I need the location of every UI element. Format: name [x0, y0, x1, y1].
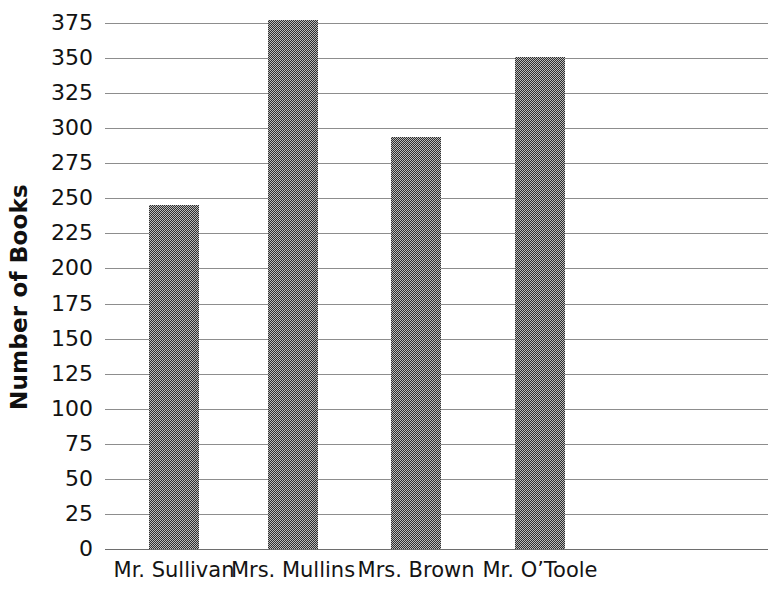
y-axis-tick-label: 150	[3, 328, 93, 350]
y-axis-tick-label: 125	[3, 363, 93, 385]
y-axis-tick-label: 375	[3, 12, 93, 34]
bar	[149, 205, 199, 549]
y-axis-tick-label: 50	[3, 468, 93, 490]
gridline	[105, 93, 768, 94]
y-axis-tick-label: 325	[3, 82, 93, 104]
bar	[515, 57, 565, 549]
y-axis-tick-label: 75	[3, 433, 93, 455]
x-axis-tick-label: Mr. O’Toole	[440, 556, 640, 584]
y-axis-tick-label: 25	[3, 503, 93, 525]
y-axis-tick-label: 175	[3, 293, 93, 315]
plot-area	[105, 23, 768, 549]
y-axis-tick-label: 275	[3, 152, 93, 174]
y-axis-tick-label: 250	[3, 187, 93, 209]
bar	[268, 20, 318, 549]
bar-chart: Number of Books 375350325300275250225200…	[0, 0, 773, 605]
x-axis-tick-labels: Mr. SullivanMrs. MullinsMrs. BrownMr. O’…	[0, 556, 773, 596]
y-axis-tick-label: 100	[3, 398, 93, 420]
y-axis-tick-label: 300	[3, 117, 93, 139]
y-axis-tick-labels: 3753503253002752502252001751501251007550…	[0, 23, 93, 549]
gridline	[105, 549, 768, 550]
gridline	[105, 23, 768, 24]
bar	[391, 137, 441, 549]
gridline	[105, 128, 768, 129]
y-axis-tick-label: 200	[3, 257, 93, 279]
y-axis-tick-label: 225	[3, 222, 93, 244]
gridline	[105, 58, 768, 59]
y-axis-tick-label: 350	[3, 47, 93, 69]
